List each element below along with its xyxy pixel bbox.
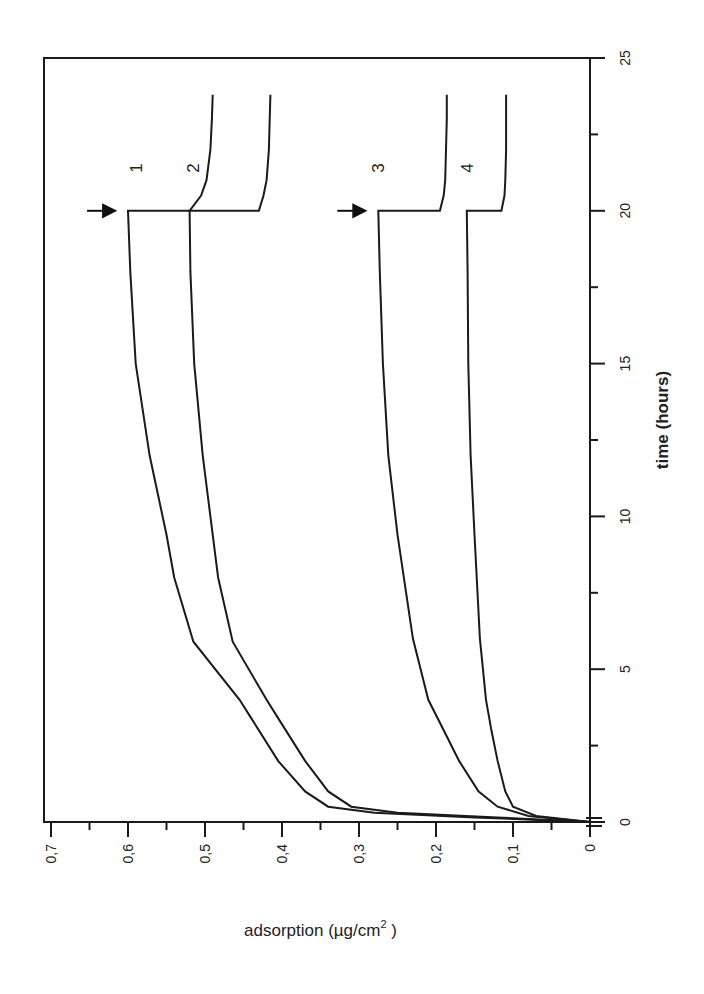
x-tick-label: 5 bbox=[617, 665, 633, 673]
curve-2 bbox=[190, 95, 590, 822]
y-axis-label-main: adsorption (µg/cm bbox=[244, 921, 380, 940]
curve-4 bbox=[467, 95, 590, 822]
x-tick-label: 15 bbox=[617, 356, 633, 372]
x-tick-label: 25 bbox=[617, 50, 633, 66]
y-tick-label: 0,2 bbox=[428, 844, 444, 864]
y-tick-label: 0,3 bbox=[351, 844, 367, 864]
y-tick-label: 0,4 bbox=[274, 844, 290, 864]
y-tick-label: 0,6 bbox=[120, 844, 136, 864]
x-tick-label: 0 bbox=[617, 818, 633, 826]
curve-label-4: 4 bbox=[458, 163, 477, 172]
curve-label-1: 1 bbox=[127, 163, 146, 172]
x-axis-label: time (hours) bbox=[653, 371, 672, 469]
adsorption-time-chart: 051015202500,10,20,30,40,50,60,7 1234 ti… bbox=[0, 0, 704, 994]
y-tick-label: 0,7 bbox=[43, 844, 59, 864]
annotations: 1234 bbox=[87, 163, 477, 217]
data-curves bbox=[128, 95, 590, 822]
arrow-head-icon bbox=[103, 205, 115, 217]
y-tick-label: 0,1 bbox=[505, 844, 521, 864]
arrow-head-icon bbox=[353, 205, 365, 217]
curve-label-3: 3 bbox=[369, 163, 388, 172]
y-axis-label-close: ) bbox=[387, 921, 397, 940]
x-tick-label: 20 bbox=[617, 203, 633, 219]
curve-label-2: 2 bbox=[184, 163, 203, 172]
y-tick-label: 0 bbox=[582, 844, 598, 852]
y-axis-label: adsorption (µg/cm2 ) bbox=[244, 918, 397, 940]
chart-stage: 051015202500,10,20,30,40,50,60,7 1234 ti… bbox=[0, 0, 704, 994]
y-tick-label: 0,5 bbox=[197, 844, 213, 864]
x-tick-label: 10 bbox=[617, 508, 633, 524]
curve-3 bbox=[378, 95, 590, 822]
curve-1 bbox=[128, 95, 590, 822]
